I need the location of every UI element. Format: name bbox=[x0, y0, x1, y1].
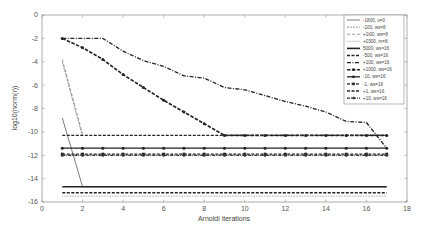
data-point bbox=[284, 154, 287, 157]
legend: -1800, u=0-100, ws=8+1i00, ws=8+0300, m=… bbox=[344, 15, 404, 104]
legend-marker bbox=[352, 68, 355, 71]
data-point bbox=[223, 147, 226, 150]
x-axis-label: Arnoldi iterations bbox=[198, 215, 251, 222]
y-tick-label: -16 bbox=[28, 198, 38, 205]
data-point bbox=[162, 154, 165, 157]
legend-marker bbox=[352, 83, 355, 86]
data-point bbox=[365, 154, 368, 157]
legend-label: +1, ws=16 bbox=[363, 89, 385, 94]
legend-label: +1i00, ws=8 bbox=[363, 32, 388, 37]
x-tick-label: 12 bbox=[281, 205, 289, 212]
data-point bbox=[243, 147, 246, 150]
data-point bbox=[162, 147, 165, 150]
line-chart: 0246810121416180-2-4-6-8-10-12-14-16 -18… bbox=[0, 0, 429, 233]
x-tick-label: 18 bbox=[403, 205, 411, 212]
data-point bbox=[61, 147, 64, 150]
x-tick-label: 16 bbox=[363, 205, 371, 212]
y-tick-label: -10 bbox=[28, 128, 38, 135]
data-point bbox=[203, 122, 206, 125]
data-point bbox=[345, 154, 348, 157]
data-point bbox=[122, 154, 125, 157]
y-tick-label: -14 bbox=[28, 175, 38, 182]
data-point bbox=[182, 111, 185, 114]
x-tick-label: 14 bbox=[322, 205, 330, 212]
legend-label: -1800, u=0 bbox=[363, 18, 386, 23]
legend-label: +100, ws=16 bbox=[363, 60, 390, 65]
y-tick-label: 0 bbox=[34, 11, 38, 18]
legend-label: -10, ws=16 bbox=[363, 74, 386, 79]
x-tick-label: 4 bbox=[121, 205, 125, 212]
data-point bbox=[162, 99, 165, 102]
legend-marker bbox=[352, 97, 355, 100]
legend-label: -100, ws=8 bbox=[363, 25, 386, 30]
y-tick-label: -2 bbox=[32, 35, 38, 42]
legend-label: +0300, m=8 bbox=[363, 39, 388, 44]
y-tick-label: -12 bbox=[28, 152, 38, 159]
legend-label: -500, ws=16 bbox=[363, 53, 389, 58]
data-point bbox=[304, 154, 307, 157]
y-axis-label: log10(norm(r)) bbox=[11, 86, 19, 131]
legend-label: 5000, ws=16 bbox=[363, 46, 390, 51]
legend-label: +10, ws=16 bbox=[363, 96, 387, 101]
legend-marker bbox=[352, 75, 355, 78]
data-point bbox=[182, 147, 185, 150]
data-point bbox=[324, 154, 327, 157]
data-point bbox=[101, 154, 104, 157]
x-tick-label: 6 bbox=[162, 205, 166, 212]
data-point bbox=[324, 147, 327, 150]
data-point bbox=[365, 147, 368, 150]
x-tick-label: 8 bbox=[202, 205, 206, 212]
data-point bbox=[101, 147, 104, 150]
y-tick-label: -8 bbox=[32, 105, 38, 112]
data-point bbox=[182, 154, 185, 157]
data-point bbox=[61, 154, 64, 157]
data-point bbox=[203, 147, 206, 150]
legend-label: -1, ws=16 bbox=[363, 82, 383, 87]
y-tick-label: -4 bbox=[32, 58, 38, 65]
data-point bbox=[385, 134, 388, 137]
data-point bbox=[284, 147, 287, 150]
data-point bbox=[142, 86, 145, 89]
data-point bbox=[142, 154, 145, 157]
data-point bbox=[264, 147, 267, 150]
data-point bbox=[264, 154, 267, 157]
data-point bbox=[81, 147, 84, 150]
x-tick-label: 2 bbox=[81, 205, 85, 212]
data-point bbox=[304, 147, 307, 150]
y-tick-label: -6 bbox=[32, 82, 38, 89]
x-tick-label: 0 bbox=[40, 205, 44, 212]
data-point bbox=[81, 154, 84, 157]
data-point bbox=[122, 73, 125, 76]
data-point bbox=[81, 46, 84, 49]
data-point bbox=[385, 154, 388, 157]
data-point bbox=[142, 147, 145, 150]
data-point bbox=[101, 58, 104, 61]
data-point bbox=[122, 147, 125, 150]
data-point bbox=[203, 154, 206, 157]
x-tick-label: 10 bbox=[241, 205, 249, 212]
data-point bbox=[61, 37, 64, 40]
data-point bbox=[243, 154, 246, 157]
data-point bbox=[385, 147, 388, 150]
legend-label: +1000, ws=16 bbox=[363, 67, 392, 72]
data-point bbox=[345, 147, 348, 150]
data-point bbox=[223, 154, 226, 157]
